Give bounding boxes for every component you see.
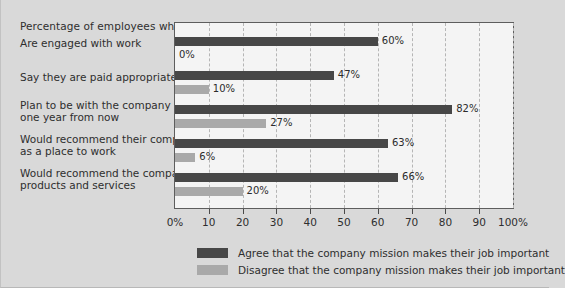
legend-item: Disagree that the company mission makes … [197, 263, 565, 276]
bar-row: 66%20% [175, 173, 513, 197]
x-axis-tick-label: 90 [473, 216, 486, 228]
x-axis-tick-label: 100% [498, 216, 528, 228]
bar-disagree [175, 85, 209, 94]
x-axis-tick-label: 10 [202, 216, 215, 228]
x-axis-tick [445, 209, 446, 214]
category-label: Would recommend the company's products a… [20, 167, 199, 192]
x-axis-tick [276, 209, 277, 214]
x-axis-tick-label: 40 [304, 216, 317, 228]
x-axis-tick-label: 70 [405, 216, 418, 228]
bar-value-label: 66% [402, 172, 424, 182]
bar-value-label: 0% [179, 50, 195, 60]
bar-value-label: 27% [270, 118, 292, 128]
category-label: Would recommend their company as a place… [20, 133, 198, 158]
x-axis-tick-label: 30 [270, 216, 283, 228]
legend-label: Agree that the company mission makes the… [238, 247, 549, 259]
bar-value-label: 6% [199, 152, 215, 162]
bar-value-label: 20% [247, 186, 269, 196]
bar-value-label: 60% [382, 36, 404, 46]
bar-value-label: 10% [213, 84, 235, 94]
x-axis-tick [209, 209, 210, 214]
x-axis-tick [412, 209, 413, 214]
bar-value-label: 82% [456, 104, 478, 114]
bar-row-group: 60%0%47%10%82%27%63%6%66%20% [175, 23, 513, 208]
bar-row: 82%27% [175, 105, 513, 129]
legend-item: Agree that the company mission makes the… [197, 246, 565, 259]
category-label: Plan to be with the company one year fro… [20, 99, 171, 124]
category-label: Say they are paid appropriately [20, 71, 186, 84]
x-axis-tick-label: 20 [236, 216, 249, 228]
gridline-100 [513, 23, 514, 208]
x-axis-tick [243, 209, 244, 214]
bar-disagree [175, 153, 195, 162]
x-axis-tick [378, 209, 379, 214]
plot-area: 60%0%47%10%82%27%63%6%66%20% [174, 22, 514, 209]
bar-agree [175, 173, 398, 182]
bar-agree [175, 139, 388, 148]
legend: Agree that the company mission makes the… [197, 246, 565, 280]
bar-value-label: 63% [392, 138, 414, 148]
legend-label: Disagree that the company mission makes … [238, 264, 565, 276]
legend-swatch-disagree [197, 265, 228, 275]
category-label: Are engaged with work [20, 37, 141, 50]
x-axis-tick-label: 0% [167, 216, 184, 228]
legend-swatch-agree [197, 248, 228, 258]
x-axis-tick-label: 50 [337, 216, 350, 228]
bar-disagree [175, 187, 243, 196]
x-axis-tick [479, 209, 480, 214]
x-axis-label-group: 0%102030405060708090100% [174, 216, 514, 230]
bar-disagree [175, 119, 266, 128]
x-axis-tick-label: 60 [371, 216, 384, 228]
x-axis-tick-label: 80 [439, 216, 452, 228]
bar-agree [175, 71, 334, 80]
bar-agree [175, 105, 452, 114]
x-axis-tick [344, 209, 345, 214]
bar-agree [175, 37, 378, 46]
bar-row: 60%0% [175, 37, 513, 61]
bar-row: 47%10% [175, 71, 513, 95]
x-axis-tick [310, 209, 311, 214]
chart-title: Percentage of employees who: [20, 20, 185, 32]
bar-value-label: 47% [338, 70, 360, 80]
bar-row: 63%6% [175, 139, 513, 163]
x-axis-tick-group [174, 209, 514, 215]
